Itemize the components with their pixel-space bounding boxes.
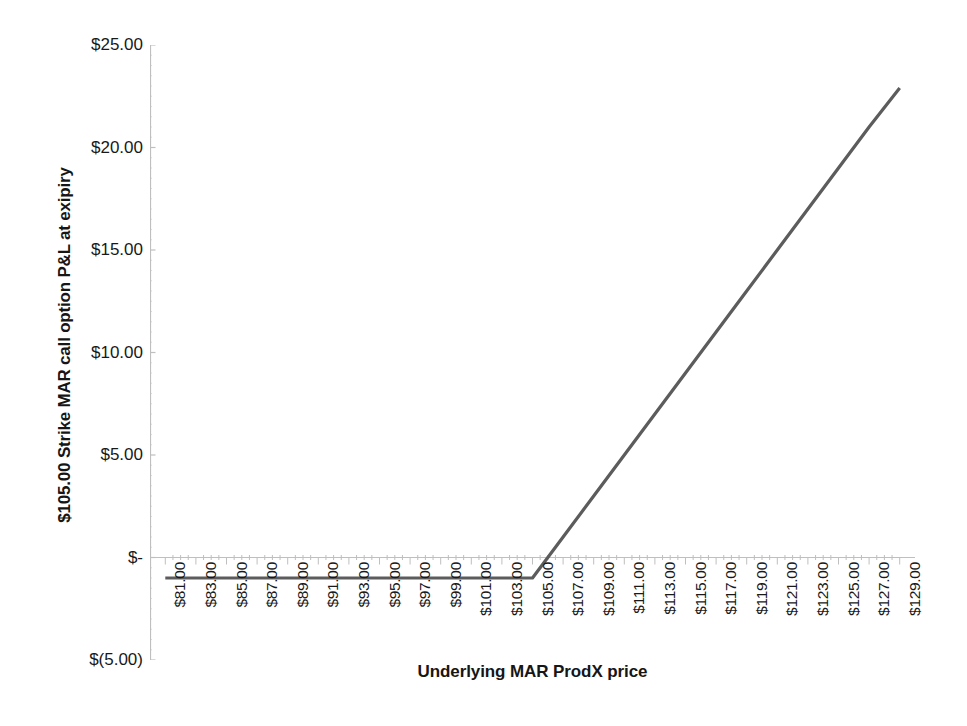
x-tick-label: $93.00 bbox=[355, 562, 373, 608]
x-tick-label: $89.00 bbox=[294, 562, 312, 608]
x-tick-label: $105.00 bbox=[539, 562, 557, 616]
x-tick-label: $113.00 bbox=[661, 562, 679, 615]
x-tick-label: $81.00 bbox=[171, 562, 189, 608]
x-axis-tick-labels: $81.00$83.00$85.00$87.00$89.00$91.00$93.… bbox=[150, 562, 915, 662]
y-tick-label: $20.00 bbox=[43, 138, 143, 158]
y-tick-label: $15.00 bbox=[43, 240, 143, 260]
x-tick-label: $99.00 bbox=[447, 562, 465, 608]
x-tick-label: $95.00 bbox=[386, 562, 404, 608]
x-axis-title: Underlying MAR ProdX price bbox=[150, 662, 915, 682]
x-tick-label: $83.00 bbox=[202, 562, 220, 608]
y-tick-label: $10.00 bbox=[43, 343, 143, 363]
x-tick-label: $87.00 bbox=[263, 562, 281, 608]
y-axis-tick-labels: $(5.00)$-$5.00$10.00$15.00$20.00$25.00 bbox=[40, 0, 143, 726]
x-tick-label: $121.00 bbox=[783, 562, 801, 616]
data-line-series-0 bbox=[165, 88, 899, 578]
x-tick-label: $127.00 bbox=[875, 562, 893, 616]
x-tick-label: $103.00 bbox=[508, 562, 526, 616]
y-tick-label: $- bbox=[43, 548, 143, 568]
x-tick-label: $119.00 bbox=[753, 562, 771, 615]
x-tick-label: $85.00 bbox=[233, 562, 251, 608]
x-tick-label: $109.00 bbox=[600, 562, 618, 616]
y-tick-label: $(5.00) bbox=[43, 650, 143, 670]
x-tick-label: $125.00 bbox=[845, 562, 863, 616]
y-tick-label: $5.00 bbox=[43, 445, 143, 465]
x-tick-label: $115.00 bbox=[692, 562, 710, 615]
x-tick-label: $101.00 bbox=[477, 562, 495, 616]
x-tick-label: $123.00 bbox=[814, 562, 832, 616]
y-tick-label: $25.00 bbox=[43, 35, 143, 55]
x-tick-label: $97.00 bbox=[416, 562, 434, 608]
x-tick-label: $129.00 bbox=[906, 562, 924, 616]
x-tick-label: $91.00 bbox=[324, 562, 342, 608]
x-tick-label: $107.00 bbox=[569, 562, 587, 616]
chart-container: $105.00 Strike MAR call option P&L at ex… bbox=[0, 0, 967, 726]
x-tick-label: $117.00 bbox=[722, 562, 740, 615]
x-tick-label: $111.00 bbox=[630, 562, 648, 614]
